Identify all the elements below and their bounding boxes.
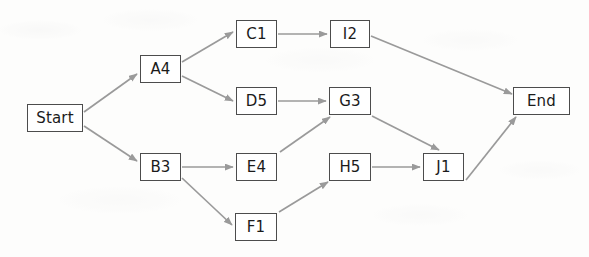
node-d5[interactable]: D5	[236, 87, 277, 115]
edge-a4-to-d5	[182, 76, 233, 101]
node-c1[interactable]: C1	[236, 20, 277, 48]
node-label-c1: C1	[246, 27, 266, 42]
edge-start-to-a4	[84, 74, 137, 112]
node-b3[interactable]: B3	[140, 153, 181, 181]
node-label-f1: F1	[247, 220, 266, 235]
node-j1[interactable]: J1	[423, 153, 464, 181]
node-label-b3: B3	[150, 160, 170, 175]
node-label-h5: H5	[339, 160, 360, 175]
node-g3[interactable]: G3	[329, 87, 371, 115]
flowchart-canvas: StartA4B3C1D5E4F1I2G3H5J1End	[0, 0, 589, 257]
edge-j1-to-end	[466, 117, 516, 180]
edge-f1-to-h5	[279, 182, 328, 212]
node-label-e4: E4	[247, 160, 266, 175]
node-h5[interactable]: H5	[329, 153, 371, 181]
node-label-start: Start	[36, 111, 74, 126]
edge-start-to-b3	[84, 126, 137, 161]
node-start[interactable]: Start	[27, 104, 83, 132]
node-f1[interactable]: F1	[235, 213, 277, 241]
node-label-d5: D5	[246, 94, 268, 109]
edge-layer	[0, 0, 589, 257]
node-label-end: End	[527, 94, 556, 109]
node-label-g3: G3	[339, 94, 361, 109]
node-e4[interactable]: E4	[236, 153, 277, 181]
node-i2[interactable]: I2	[330, 20, 370, 48]
node-label-i2: I2	[343, 27, 357, 42]
edge-a4-to-c1	[182, 32, 233, 62]
edge-b3-to-f1	[182, 178, 232, 225]
node-label-j1: J1	[436, 160, 450, 175]
node-label-a4: A4	[150, 62, 170, 77]
edge-e4-to-g3	[280, 117, 330, 152]
edge-i2-to-end	[371, 36, 512, 94]
edge-g3-to-j1	[372, 116, 439, 150]
node-end[interactable]: End	[513, 87, 570, 115]
node-a4[interactable]: A4	[140, 55, 181, 83]
